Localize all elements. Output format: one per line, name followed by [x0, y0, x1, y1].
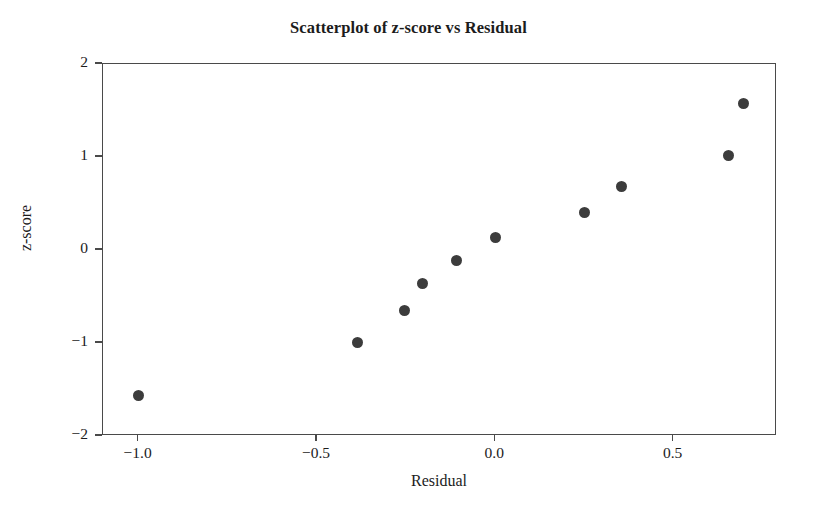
y-axis-tick [95, 248, 102, 249]
data-point [616, 181, 627, 192]
y-axis-tick [95, 434, 102, 435]
x-axis-label: Residual [102, 472, 776, 490]
y-axis-tick-label: −1 [50, 332, 88, 350]
x-axis-tick [494, 434, 495, 441]
x-axis-tick-label: −1.0 [98, 444, 178, 462]
y-axis-tick-label: 0 [50, 239, 88, 257]
x-axis-tick [672, 434, 673, 441]
x-axis-tick-label: 0.0 [454, 444, 534, 462]
plot-area [103, 64, 775, 434]
data-point [133, 390, 144, 401]
data-point [352, 337, 363, 348]
data-point [451, 255, 462, 266]
y-axis-tick-label: 2 [50, 53, 88, 71]
y-axis-label: z-score [17, 158, 35, 298]
x-axis-tick-label: 0.5 [633, 444, 713, 462]
y-axis-tick [95, 62, 102, 63]
data-point [417, 278, 428, 289]
data-point [490, 232, 501, 243]
y-axis-tick-label: 1 [50, 146, 88, 164]
data-point [723, 150, 734, 161]
y-axis-tick-label: −2 [50, 425, 88, 443]
data-point [399, 305, 410, 316]
y-axis-tick [95, 341, 102, 342]
scatterplot-figure: Scatterplot of z-score vs Residual −1.0−… [0, 0, 817, 517]
data-point [738, 98, 749, 109]
data-point [579, 207, 590, 218]
plot-frame [102, 63, 776, 435]
chart-title: Scatterplot of z-score vs Residual [0, 18, 817, 38]
x-axis-tick-label: −0.5 [276, 444, 356, 462]
y-axis-tick [95, 155, 102, 156]
x-axis-tick [137, 434, 138, 441]
x-axis-tick [315, 434, 316, 441]
